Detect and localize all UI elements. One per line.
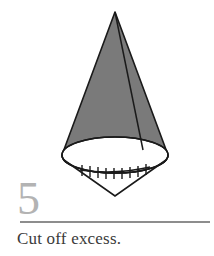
step-number: 5 [17, 176, 40, 222]
caption-divider-rule [20, 221, 210, 223]
step-caption: Cut off excess. [17, 228, 207, 250]
step-illustration-page: 5 Cut off excess. [0, 0, 214, 256]
